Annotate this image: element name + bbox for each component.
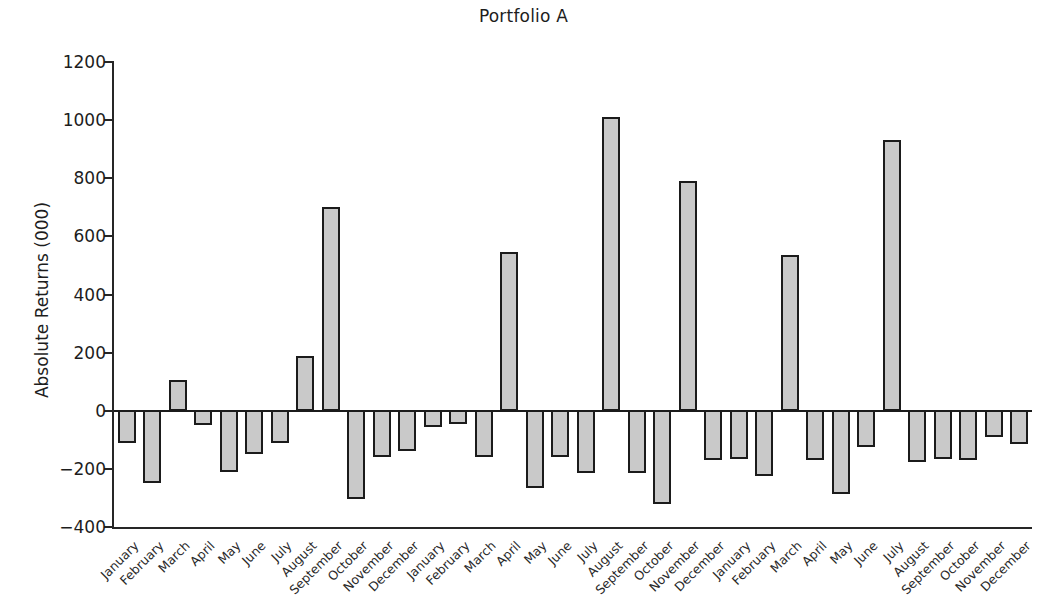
bar xyxy=(373,410,391,458)
bar xyxy=(500,252,518,410)
bar xyxy=(1010,410,1028,444)
bar xyxy=(806,410,824,460)
y-tick-label: −400 xyxy=(59,519,106,536)
x-axis-labels: JanuaryFebruaryMarchAprilMayJuneJulyAugu… xyxy=(112,534,1032,604)
bar xyxy=(194,410,212,426)
bar xyxy=(883,140,901,410)
bar xyxy=(704,410,722,460)
y-tick-label: 0 xyxy=(95,402,106,419)
bar xyxy=(934,410,952,459)
bar xyxy=(526,410,544,488)
bar xyxy=(271,410,289,443)
bar xyxy=(730,410,748,459)
y-tick-label: 600 xyxy=(74,228,106,245)
bar xyxy=(220,410,238,472)
bar xyxy=(908,410,926,462)
bar xyxy=(169,380,187,411)
y-tick-label: 1000 xyxy=(63,112,106,129)
bar xyxy=(398,410,416,452)
bar xyxy=(832,410,850,494)
bar xyxy=(296,356,314,411)
bar xyxy=(985,410,1003,437)
bar xyxy=(449,410,467,424)
bar xyxy=(347,410,365,500)
bar xyxy=(679,181,697,411)
chart-container: Portfolio A Absolute Returns (000) 12001… xyxy=(0,0,1047,605)
bar xyxy=(577,410,595,473)
y-tick-label: −200 xyxy=(59,460,106,477)
bar xyxy=(322,207,340,410)
bar xyxy=(628,410,646,473)
bar xyxy=(755,410,773,476)
bar xyxy=(602,117,620,411)
bar xyxy=(551,410,569,458)
y-axis-label: Absolute Returns (000) xyxy=(32,110,52,490)
bar xyxy=(475,410,493,458)
bar xyxy=(424,410,442,427)
plot-inner: 120010008006004002000−200−400 xyxy=(114,62,1032,527)
chart-title: Portfolio A xyxy=(0,6,1047,26)
y-tick-label: 800 xyxy=(74,170,106,187)
bar xyxy=(118,410,136,443)
y-tick-label: 200 xyxy=(74,344,106,361)
y-tick-label: 1200 xyxy=(63,54,106,71)
bar xyxy=(653,410,671,504)
plot-area: 120010008006004002000−200−400 xyxy=(112,62,1032,529)
bar xyxy=(959,410,977,460)
y-tick-label: 400 xyxy=(74,286,106,303)
bar xyxy=(245,410,263,455)
bar xyxy=(857,410,875,447)
bar xyxy=(143,410,161,484)
bar xyxy=(781,255,799,410)
